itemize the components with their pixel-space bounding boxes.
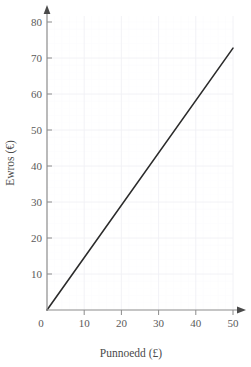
y-axis-title: Ewros (€) bbox=[4, 140, 17, 186]
x-tick-label: 30 bbox=[153, 317, 165, 329]
y-axis-tick-labels: 10 20 30 40 50 60 70 80 bbox=[31, 16, 43, 280]
x-axis-title: Punnoedd (£) bbox=[100, 347, 162, 360]
chart-container: 10 20 30 40 50 60 70 80 0 10 20 30 40 50… bbox=[0, 0, 251, 367]
x-axis-arrow-icon bbox=[237, 307, 246, 314]
y-tick-label: 20 bbox=[31, 232, 43, 244]
y-axis-arrow-icon bbox=[44, 5, 51, 14]
y-tick-label: 40 bbox=[31, 160, 43, 172]
plot-background bbox=[47, 16, 233, 310]
x-tick-label: 50 bbox=[228, 317, 240, 329]
y-tick-label: 60 bbox=[31, 88, 43, 100]
y-tick-label: 10 bbox=[31, 268, 43, 280]
x-axis-tick-labels: 10 20 30 40 50 bbox=[79, 317, 239, 329]
x-tick-label: 40 bbox=[190, 317, 202, 329]
y-tick-label: 30 bbox=[31, 196, 43, 208]
y-tick-label: 70 bbox=[31, 52, 43, 64]
y-tick-label: 50 bbox=[31, 124, 43, 136]
x-axis-ticks bbox=[84, 310, 233, 315]
y-tick-label: 80 bbox=[31, 16, 43, 28]
conversion-line-chart: 10 20 30 40 50 60 70 80 0 10 20 30 40 50… bbox=[0, 0, 251, 367]
origin-tick-label: 0 bbox=[38, 317, 44, 329]
x-tick-label: 10 bbox=[79, 317, 91, 329]
x-tick-label: 20 bbox=[116, 317, 128, 329]
